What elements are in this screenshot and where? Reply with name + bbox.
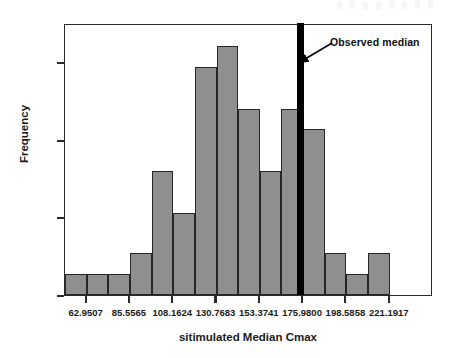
x-tick-mark — [301, 296, 303, 303]
histogram-bar — [238, 109, 260, 296]
plot-area — [64, 24, 432, 296]
y-tick-mark — [57, 217, 64, 219]
histogram-bar — [65, 274, 87, 295]
histogram-bar — [195, 67, 217, 295]
observed-median-label: Observed median — [330, 36, 420, 48]
histogram-figure: 0.000.050.100.15 Frequency Observed medi… — [0, 0, 450, 358]
x-tick-mark — [388, 296, 390, 303]
histogram-bar — [260, 171, 282, 295]
x-tick-mark — [85, 296, 87, 303]
y-tick-mark — [57, 140, 64, 142]
y-tick-mark — [57, 62, 64, 64]
histogram-bar — [152, 171, 174, 295]
histogram-bar — [368, 253, 390, 295]
y-tick-mark — [57, 295, 64, 297]
x-tick-mark — [214, 296, 216, 303]
scan-artifact — [337, 1, 441, 9]
x-tick-mark — [344, 296, 346, 303]
observed-median-arrow-icon — [291, 40, 335, 70]
x-tick-mark — [258, 296, 260, 303]
histogram-bar — [130, 253, 152, 295]
x-tick-mark — [128, 296, 130, 303]
histogram-bar — [217, 46, 239, 295]
histogram-bar — [87, 274, 109, 295]
histogram-bar — [346, 274, 368, 295]
histogram-bar — [108, 274, 130, 295]
histogram-bar — [173, 213, 195, 295]
x-axis-title: sitimulated Median Cmax — [64, 331, 432, 343]
bars-layer — [65, 25, 431, 295]
x-tick-mark — [171, 296, 173, 303]
y-axis-title: Frequency — [18, 69, 30, 199]
x-tick-label: 221.1917 — [357, 307, 421, 318]
histogram-bar — [325, 253, 347, 295]
histogram-bar — [303, 129, 325, 295]
